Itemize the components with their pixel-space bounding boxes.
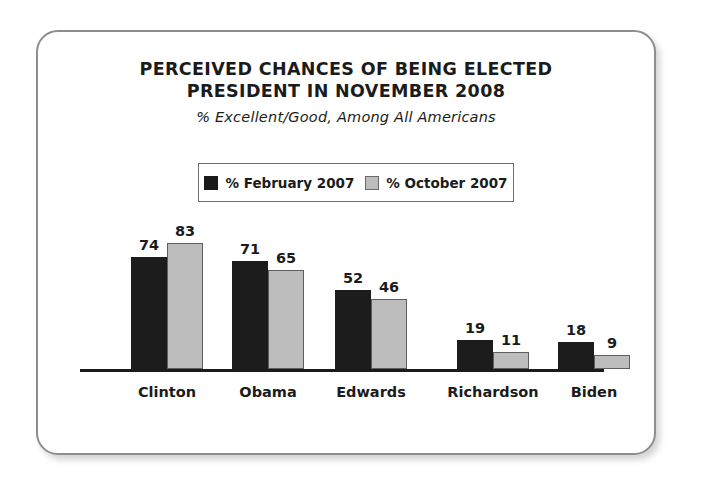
- bar-group-biden: 189: [558, 217, 630, 369]
- bar-biden-series-1[interactable]: 18: [558, 217, 594, 369]
- bar-value-label: 52: [335, 270, 371, 286]
- legend-item-october-2007[interactable]: % October 2007: [365, 175, 507, 191]
- bar-edwards-series-2[interactable]: 46: [371, 217, 407, 369]
- bar-value-label: 46: [371, 279, 407, 295]
- bar-group-edwards: 5246: [335, 217, 407, 369]
- category-label-edwards: Edwards: [336, 384, 406, 400]
- bar-rect[interactable]: [558, 342, 594, 369]
- chart-legend: % February 2007 % October 2007: [198, 163, 514, 202]
- bar-rect[interactable]: [167, 243, 203, 369]
- bar-obama-series-1[interactable]: 71: [232, 217, 268, 369]
- category-label-richardson: Richardson: [447, 384, 538, 400]
- x-axis-category-labels: ClintonObamaEdwardsRichardsonBiden: [80, 384, 604, 408]
- bar-rect[interactable]: [371, 299, 407, 369]
- x-axis-line: [80, 369, 604, 372]
- bar-clinton-series-1[interactable]: 74: [131, 217, 167, 369]
- bar-obama-series-2[interactable]: 65: [268, 217, 304, 369]
- bar-group-clinton: 7483: [131, 217, 203, 369]
- category-label-obama: Obama: [239, 384, 296, 400]
- bar-group-richardson: 1911: [457, 217, 529, 369]
- bar-biden-series-2[interactable]: 9: [594, 217, 630, 369]
- chart-title-block: PERCEIVED CHANCES OF BEING ELECTED PRESI…: [38, 58, 654, 125]
- bar-rect[interactable]: [232, 261, 268, 369]
- category-label-biden: Biden: [571, 384, 618, 400]
- page-title-line-1: PERCEIVED CHANCES OF BEING ELECTED: [38, 58, 654, 80]
- bar-value-label: 71: [232, 241, 268, 257]
- bar-value-label: 65: [268, 250, 304, 266]
- bar-clinton-series-2[interactable]: 83: [167, 217, 203, 369]
- chart-card: PERCEIVED CHANCES OF BEING ELECTED PRESI…: [36, 30, 656, 455]
- bar-richardson-series-1[interactable]: 19: [457, 217, 493, 369]
- bar-value-label: 11: [493, 332, 529, 348]
- bar-rect[interactable]: [493, 352, 529, 369]
- bar-group-obama: 7165: [232, 217, 304, 369]
- legend-label-october-2007: % October 2007: [386, 175, 507, 191]
- plot-area: 7483716552461911189: [80, 217, 604, 372]
- bar-value-label: 19: [457, 320, 493, 336]
- page-title-line-2: PRESIDENT IN NOVEMBER 2008: [38, 80, 654, 102]
- bar-value-label: 18: [558, 322, 594, 338]
- bar-value-label: 74: [131, 237, 167, 253]
- bar-rect[interactable]: [335, 290, 371, 369]
- category-label-clinton: Clinton: [138, 384, 196, 400]
- bar-rect[interactable]: [268, 270, 304, 369]
- legend-label-february-2007: % February 2007: [225, 175, 354, 191]
- bar-value-label: 83: [167, 223, 203, 239]
- bar-value-label: 9: [594, 335, 630, 351]
- bar-rect[interactable]: [594, 355, 630, 369]
- dark-swatch-icon: [204, 176, 218, 190]
- light-swatch-icon: [365, 176, 379, 190]
- legend-item-february-2007[interactable]: % February 2007: [204, 175, 354, 191]
- chart-subtitle: % Excellent/Good, Among All Americans: [38, 109, 654, 125]
- bar-rect[interactable]: [457, 340, 493, 369]
- bar-richardson-series-2[interactable]: 11: [493, 217, 529, 369]
- bar-edwards-series-1[interactable]: 52: [335, 217, 371, 369]
- bar-rect[interactable]: [131, 257, 167, 369]
